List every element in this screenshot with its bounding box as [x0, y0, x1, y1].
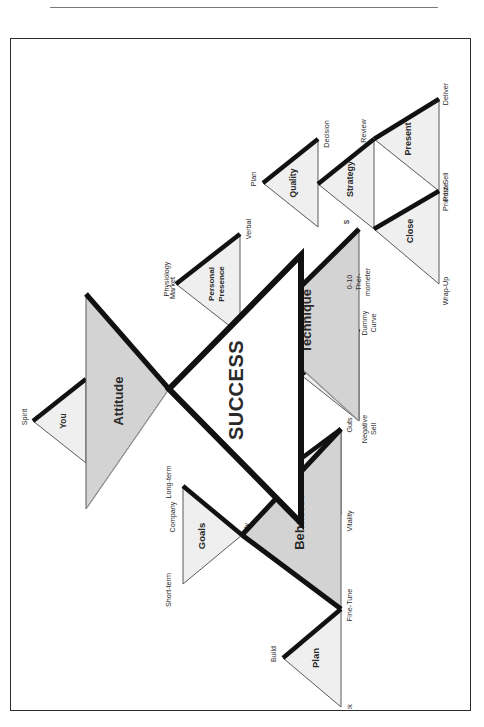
presence-corner-physiology: Physiology	[162, 261, 171, 296]
page-top-rule	[50, 7, 438, 8]
attitude-label: Attitude	[111, 376, 126, 425]
plan-corner-track: Track	[345, 704, 354, 709]
personal-presence-label-line1: Personal	[207, 267, 216, 301]
plan-corner-build: Build	[269, 646, 278, 662]
plan-label: Plan	[310, 648, 321, 668]
technique-corner-thermo-line3: mometer	[363, 267, 372, 296]
tactics-corner-dummy-line2: Curve	[369, 313, 378, 332]
technique-corner-thermo-line2: Ther-	[354, 273, 363, 291]
you-label: You	[58, 413, 68, 428]
tactics-corner-dummy-line1: Dummy	[360, 310, 369, 335]
goals-triangle	[183, 486, 242, 584]
technique-corner-thermo-line1: 0-10	[345, 275, 354, 289]
page-canvas: Goals Long-term Short-term Daily Plan Bu…	[0, 0, 484, 727]
goals-triangle-group: Goals Long-term Short-term Daily	[164, 466, 251, 607]
close-corner-wrap-up: Wrap-Up	[441, 277, 450, 306]
goals-label: Goals	[196, 523, 207, 549]
plan-corner-fine-tune: Fine-Tune	[345, 589, 354, 622]
quality-label: Quality	[288, 168, 298, 197]
attitude-triangle	[86, 294, 169, 509]
goals-corner-short-term: Short-term	[164, 573, 173, 607]
tactics-corner-negative-line1: Negative	[360, 415, 369, 443]
success-triangle-diagram: Goals Long-term Short-term Daily Plan Bu…	[11, 39, 469, 709]
quality-corner-decision: Decision	[322, 120, 331, 148]
close-triangle-group: Close Post-Sell Wrap-Up	[374, 172, 450, 305]
attitude-corner-company: Company	[168, 501, 177, 532]
presence-corner-verbal: Verbal	[244, 218, 253, 239]
present-label: Present	[403, 122, 413, 155]
strategy-label: Strategy	[345, 161, 355, 197]
quality-triangle-group: Quality Plan Decision	[249, 120, 331, 227]
personal-presence-label-line2: Presence	[217, 266, 226, 302]
close-label: Close	[405, 219, 415, 244]
tactics-corner-negative-line2: Sell	[369, 423, 378, 435]
page-header-clipped-text	[258, 0, 348, 6]
success-label: SUCCESS	[225, 340, 247, 440]
strategy-corner-review: Review	[359, 118, 368, 142]
goals-corner-long-term: Long-term	[164, 466, 173, 499]
action-corner-vitality: Vitality	[345, 510, 354, 531]
action-corner-guts: Guts	[345, 417, 354, 433]
quality-corner-plan: Plan	[249, 172, 258, 186]
close-corner-post-sell: Post-Sell	[441, 172, 450, 201]
you-corner-spirit: Spirit	[20, 409, 29, 425]
present-corner-deliver: Deliver	[441, 82, 450, 105]
technique-corner-dollar: $	[342, 219, 351, 224]
figure-frame: Goals Long-term Short-term Daily Plan Bu…	[10, 38, 471, 711]
diagram-stage: Goals Long-term Short-term Daily Plan Bu…	[11, 39, 470, 710]
